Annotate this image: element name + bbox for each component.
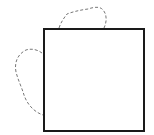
left-dashed-lobe [15,49,43,115]
top-dashed-lobe [59,7,106,28]
diagram-canvas [0,0,154,135]
square [44,29,144,131]
